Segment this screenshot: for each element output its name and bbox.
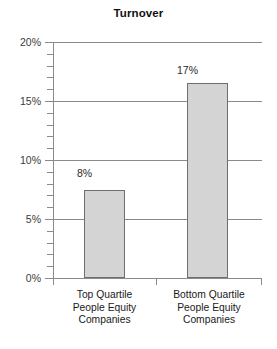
turnover-bar-chart: Turnover 20% 15% 10% 5% 0% 8% 17% [0,0,277,349]
y-tick-minor-7 [47,195,53,196]
y-tick-major-0 [45,278,53,279]
category-label-bottom-quartile: Bottom Quartile People Equity Companies [156,289,262,327]
category-label-line-2: People Equity [156,302,262,315]
y-axis-line [53,42,54,279]
y-tick-minor-2 [47,254,53,255]
y-tick-major-5 [45,219,53,220]
bar-value-bottom-quartile: 17% [167,64,208,76]
y-tick-minor-11 [47,148,53,149]
y-tick-minor-8 [47,184,53,185]
bar-top-quartile [84,190,125,279]
category-label-line-2: People Equity [53,302,156,315]
y-tick-minor-6 [47,207,53,208]
y-tick-minor-3 [47,243,53,244]
chart-title: Turnover [0,7,277,19]
bar-bottom-quartile [187,83,228,278]
y-tick-major-15 [45,101,53,102]
y-axis-label-15: 15% [1,95,41,107]
category-label-top-quartile: Top Quartile People Equity Companies [53,289,156,327]
y-tick-major-20 [45,42,53,43]
gridline-15 [53,101,262,102]
y-tick-minor-14 [47,113,53,114]
plot-area [53,42,262,278]
y-tick-minor-4 [47,231,53,232]
category-label-line-3: Companies [53,314,156,327]
y-tick-minor-19 [47,54,53,55]
category-label-line-1: Top Quartile [53,289,156,302]
y-tick-minor-17 [47,77,53,78]
category-label-line-3: Companies [156,314,262,327]
y-tick-minor-1 [47,266,53,267]
bar-value-top-quartile: 8% [64,167,105,179]
y-axis-label-10: 10% [1,154,41,166]
y-axis-label-5: 5% [1,213,41,225]
category-divider-middle [156,278,157,285]
category-divider-right [261,278,262,285]
gridline-20 [53,42,262,43]
category-divider-left [53,278,54,285]
category-label-line-1: Bottom Quartile [156,289,262,302]
y-axis-label-0: 0% [1,272,41,284]
y-tick-major-10 [45,160,53,161]
y-tick-minor-12 [47,136,53,137]
y-tick-minor-18 [47,66,53,67]
y-tick-minor-16 [47,89,53,90]
y-axis-label-20: 20% [1,36,41,48]
x-axis-line [53,278,262,279]
y-tick-minor-13 [47,125,53,126]
y-tick-minor-9 [47,172,53,173]
gridline-10 [53,160,262,161]
